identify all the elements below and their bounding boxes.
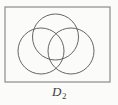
venn-circle-left bbox=[18, 28, 64, 74]
universal-set-rectangle bbox=[5, 7, 110, 82]
venn-circle-top bbox=[33, 14, 79, 60]
venn-diagram-figure: D2 bbox=[0, 0, 118, 105]
venn-circle-right bbox=[48, 28, 94, 74]
figure-caption-subscript: 2 bbox=[62, 91, 67, 101]
figure-caption-letter: D bbox=[52, 84, 62, 99]
figure-caption: D2 bbox=[0, 84, 118, 101]
